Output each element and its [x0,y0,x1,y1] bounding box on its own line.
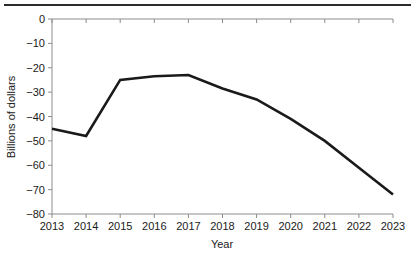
x-tick-label: 2020 [278,220,302,232]
y-tick-label: −30 [26,86,45,98]
x-axis-tick-labels: 2013201420152016201720182019202020212022… [40,220,405,232]
y-tick-label: −80 [26,208,45,220]
axis-spines [52,19,393,214]
x-tick-label: 2017 [176,220,200,232]
x-tick-label: 2013 [40,220,64,232]
x-axis-ticks-bottom [52,214,393,218]
x-axis-ticks-top [52,19,393,23]
chart-figure: 0−10−20−30−40−50−60−70−80 20132014201520… [0,0,415,259]
y-tick-label: −40 [26,111,45,123]
x-tick-label: 2019 [244,220,268,232]
y-tick-label: −50 [26,135,45,147]
y-tick-label: 0 [39,13,45,25]
x-tick-label: 2021 [313,220,337,232]
x-tick-label: 2018 [210,220,234,232]
y-axis-title: Billions of dollars [5,75,17,158]
data-series-line [52,75,393,194]
y-axis-tick-labels: 0−10−20−30−40−50−60−70−80 [26,13,45,220]
x-tick-label: 2014 [74,220,98,232]
x-tick-label: 2016 [142,220,166,232]
x-tick-label: 2023 [381,220,405,232]
y-tick-label: −70 [26,184,45,196]
y-tick-label: −60 [26,159,45,171]
x-tick-label: 2022 [347,220,371,232]
x-axis-title: Year [211,238,234,250]
x-tick-label: 2015 [108,220,132,232]
line-chart-plot: 0−10−20−30−40−50−60−70−80 20132014201520… [0,0,415,259]
y-tick-label: −10 [26,37,45,49]
y-tick-label: −20 [26,62,45,74]
y-axis-ticks [48,19,52,214]
